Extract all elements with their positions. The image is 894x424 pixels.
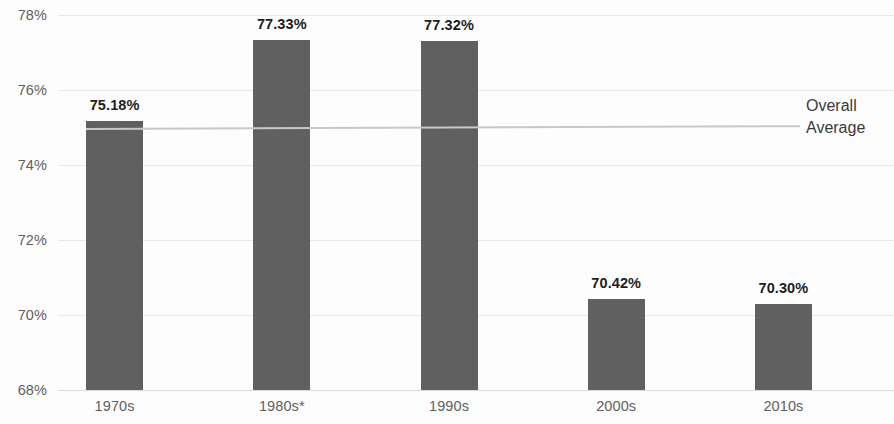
bar [86,121,143,390]
y-tick-label: 72% [18,232,47,248]
y-tick-label: 76% [18,82,47,98]
overall-average-label: Overall Average [806,95,865,140]
bar-value-label: 77.33% [257,16,307,32]
gridline [58,15,894,16]
x-tick-label: 2010s [763,398,803,414]
bar-value-label: 70.42% [591,275,641,291]
x-tick-label: 2000s [596,398,636,414]
y-tick-label: 70% [18,307,47,323]
bar [253,40,310,390]
y-tick-label: 68% [18,382,47,398]
y-axis: 68%70%72%74%76%78% [0,0,58,424]
x-tick-label: 1980s* [259,398,305,414]
gridline [58,390,894,391]
overall-average-label-line1: Overall [806,95,865,118]
bar-value-label: 75.18% [90,97,140,113]
y-tick-label: 74% [18,157,47,173]
bar [755,304,812,390]
bar-chart: 68%70%72%74%76%78% 75.18%77.33%77.32%70.… [0,0,894,424]
bar [421,41,478,391]
plot-area [58,15,894,390]
bar [588,299,645,390]
bar-value-label: 77.32% [424,17,474,33]
x-tick-label: 1990s [429,398,469,414]
x-tick-label: 1970s [95,398,135,414]
bar-value-label: 70.30% [759,280,809,296]
y-tick-label: 78% [18,7,47,23]
overall-average-label-line2: Average [806,117,865,140]
